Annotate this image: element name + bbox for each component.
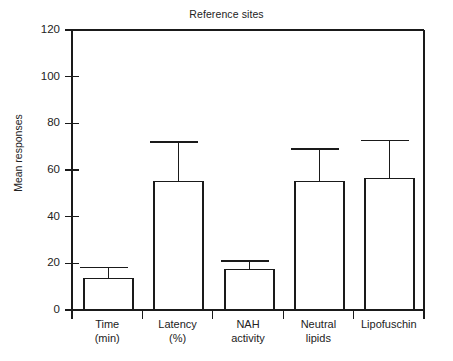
bar — [154, 182, 203, 310]
bar — [295, 182, 344, 310]
bar — [84, 279, 133, 311]
bar — [365, 178, 414, 310]
plot-area — [0, 0, 453, 361]
chart-container: Reference sites Mean responses 020406080… — [0, 0, 453, 361]
bar — [225, 270, 274, 310]
